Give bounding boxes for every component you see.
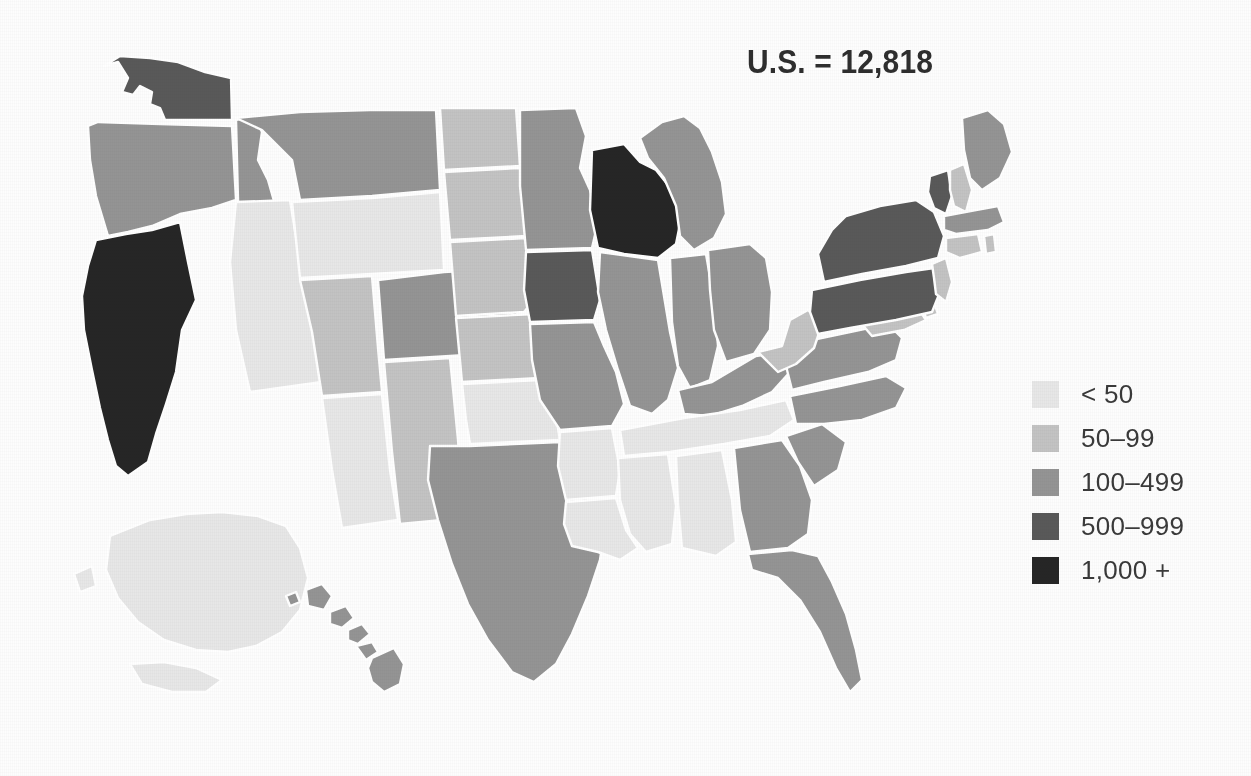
state-ak: Alaska	[74, 512, 308, 692]
state-mn: Minnesota	[520, 108, 598, 250]
legend-item: 100–499	[1032, 460, 1242, 504]
state-ne: Nebraska	[450, 238, 534, 316]
states-layer: WashingtonOregonCaliforniaIdahoNevadaMon…	[74, 56, 1012, 692]
choropleth-figure: WashingtonOregonCaliforniaIdahoNevadaMon…	[0, 0, 1251, 776]
legend-label: 100–499	[1081, 467, 1184, 498]
state-ia: Iowa	[524, 250, 600, 322]
state-ar: Arkansas	[558, 428, 620, 500]
state-ma: Massachusetts	[944, 206, 1004, 234]
legend-label: 1,000 +	[1081, 555, 1171, 586]
state-al: Alabama	[676, 450, 736, 556]
state-vt: Vermont	[928, 170, 952, 214]
legend-item: < 50	[1032, 372, 1242, 416]
legend-swatch	[1032, 425, 1059, 452]
state-ca: California	[82, 222, 196, 476]
state-hi: Hawaii	[286, 584, 404, 692]
legend-swatch	[1032, 469, 1059, 496]
state-me: Maine	[962, 110, 1012, 190]
legend-swatch	[1032, 381, 1059, 408]
legend-swatch	[1032, 557, 1059, 584]
legend-swatch	[1032, 513, 1059, 540]
map-legend: < 50 50–99 100–499 500–999 1,000 +	[1032, 372, 1242, 592]
legend-item: 1,000 +	[1032, 548, 1242, 592]
state-or: Oregon	[88, 122, 236, 236]
legend-label: 500–999	[1081, 511, 1184, 542]
state-ri: Rhode Island	[984, 234, 996, 254]
state-wy: Wyoming	[292, 192, 444, 278]
state-fl: Florida	[748, 550, 862, 692]
state-sd: South Dakota	[444, 168, 526, 240]
state-wa: Washington	[104, 56, 232, 120]
state-nd: North Dakota	[440, 108, 520, 170]
legend-item: 50–99	[1032, 416, 1242, 460]
state-ct: Connecticut	[946, 234, 982, 258]
legend-label: < 50	[1081, 379, 1134, 410]
state-ks: Kansas	[456, 314, 540, 382]
legend-label: 50–99	[1081, 423, 1155, 454]
state-az: Arizona	[322, 394, 398, 528]
legend-item: 500–999	[1032, 504, 1242, 548]
map-title: U.S. = 12,818	[682, 42, 999, 81]
